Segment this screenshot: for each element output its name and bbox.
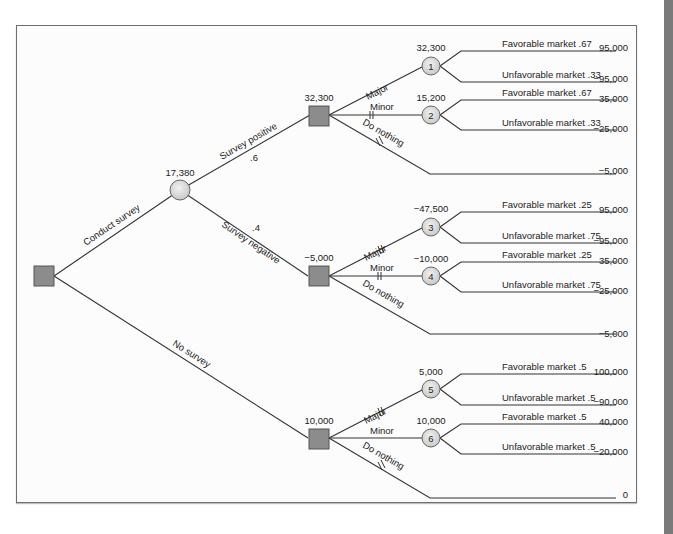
svg-text:40,000: 40,000 [599, 416, 628, 427]
svg-text:−5,000: −5,000 [599, 165, 628, 176]
svg-text:Unfavorable market .33: Unfavorable market .33 [502, 69, 601, 80]
svg-text:1: 1 [428, 61, 433, 72]
svg-text:Unfavorable market .5: Unfavorable market .5 [502, 392, 595, 403]
svg-text:Unfavorable market .5: Unfavorable market .5 [502, 441, 595, 452]
chance-node-6: 6 10,000 [416, 415, 445, 447]
svg-text:Favorable market .5: Favorable market .5 [502, 361, 586, 372]
chance-node-4: 4 −10,000 [414, 253, 449, 285]
svg-text:35,000: 35,000 [599, 255, 628, 266]
decision-node-negative [309, 266, 329, 286]
svg-text:95,000: 95,000 [599, 42, 628, 53]
chance-node-2: 2 15,200 [416, 92, 445, 124]
chance-value-3: −47,500 [414, 203, 449, 214]
label-minor-3: Minor [370, 425, 394, 436]
svg-text:5: 5 [428, 384, 433, 395]
svg-text:100,000: 100,000 [594, 366, 628, 377]
label-nothing-3: Do nothing [361, 439, 406, 472]
decision-node-positive [309, 106, 329, 126]
decision-value-no-survey: 10,000 [304, 415, 333, 426]
label-minor-2: Minor [370, 262, 394, 273]
label-major-1: Major [364, 81, 390, 102]
svg-text:Favorable market .25: Favorable market .25 [502, 249, 592, 260]
label-major-2: Major [362, 242, 388, 263]
svg-text:0: 0 [623, 489, 628, 500]
label-survey-positive-prob: .6 [250, 152, 258, 163]
svg-text:Unfavorable market .75: Unfavorable market .75 [502, 279, 601, 290]
chance-node-3: 3 −47,500 [414, 203, 449, 236]
svg-text:−95,000: −95,000 [593, 73, 628, 84]
branch-no-survey [54, 276, 308, 438]
label-nothing-2: Do nothing [361, 277, 406, 310]
branch-conduct-survey [54, 190, 180, 276]
chance-value-4: −10,000 [414, 253, 449, 264]
label-survey-positive: Survey positive [218, 120, 279, 162]
svg-text:2: 2 [428, 110, 433, 121]
svg-text:95,000: 95,000 [599, 204, 628, 215]
chance-value-2: 15,200 [416, 92, 445, 103]
svg-text:Favorable market .67: Favorable market .67 [502, 87, 592, 98]
label-minor-1: Minor [370, 101, 394, 112]
svg-text:4: 4 [428, 271, 433, 282]
svg-text:−25,000: −25,000 [593, 285, 628, 296]
decision-tree: 17,380 32,300 −5,000 10,000 1 32,300 2 1… [0, 0, 673, 534]
svg-text:Favorable market .67: Favorable market .67 [502, 38, 592, 49]
payoff-values: 95,000 −95,000 35,000 −25,000 −5,000 95,… [593, 42, 628, 500]
svg-text:3: 3 [428, 222, 433, 233]
svg-text:Favorable market .25: Favorable market .25 [502, 199, 592, 210]
label-conduct-survey: Conduct survey [81, 201, 142, 247]
chance-value-6: 10,000 [416, 415, 445, 426]
root-decision-node [34, 266, 54, 286]
chance-node-5: 5 5,000 [419, 366, 443, 398]
svg-text:−25,000: −25,000 [593, 123, 628, 134]
label-major-3: Major [362, 405, 388, 426]
decision-value-positive: 32,300 [304, 92, 333, 103]
svg-text:Unfavorable market .75: Unfavorable market .75 [502, 230, 601, 241]
survey-chance-value: 17,380 [165, 167, 194, 178]
chance-value-1: 32,300 [416, 42, 445, 53]
chance-value-5: 5,000 [419, 366, 443, 377]
label-no-survey: No survey [171, 337, 213, 369]
decision-node-no-survey [309, 429, 329, 449]
branch-survey-positive [180, 115, 310, 190]
svg-text:−90,000: −90,000 [593, 396, 628, 407]
svg-text:6: 6 [428, 433, 433, 444]
svg-text:−20,000: −20,000 [593, 446, 628, 457]
decision-value-negative: −5,000 [304, 252, 333, 263]
label-nothing-1: Do nothing [361, 116, 406, 149]
svg-text:Favorable market .5: Favorable market .5 [502, 411, 586, 422]
svg-text:Unfavorable market .33: Unfavorable market .33 [502, 117, 601, 128]
chance-node-1: 1 32,300 [416, 42, 445, 75]
svg-text:−95,000: −95,000 [593, 235, 628, 246]
label-survey-negative-prob: .4 [252, 222, 260, 233]
svg-text:35,000: 35,000 [599, 93, 628, 104]
survey-chance-node [170, 180, 190, 200]
svg-text:−5,000: −5,000 [599, 328, 628, 339]
